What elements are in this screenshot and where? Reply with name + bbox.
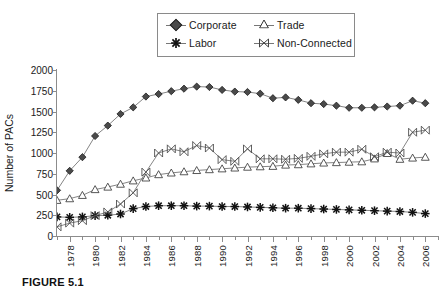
x-tick-mark xyxy=(425,236,426,242)
x-tick-mark xyxy=(184,236,185,240)
x-tick-mark xyxy=(375,236,376,242)
x-tick-mark xyxy=(349,236,350,242)
legend-item-labor: Labor xyxy=(166,35,252,51)
x-tick-mark xyxy=(248,236,249,242)
x-tick-mark xyxy=(273,236,274,242)
x-tick-label: 1994 xyxy=(267,245,278,267)
filled-diamond-icon xyxy=(166,19,186,31)
y-tick-label: 1500 xyxy=(31,106,53,117)
x-axis-ticks: 1978198019821984198619881990199219941996… xyxy=(57,236,438,292)
x-tick-mark xyxy=(146,236,147,242)
y-tick-label: 1750 xyxy=(31,85,53,96)
legend-item-trade: Trade xyxy=(254,17,350,33)
x-tick-mark xyxy=(286,236,287,240)
y-tick-label: 1250 xyxy=(31,127,53,138)
x-tick-label: 1984 xyxy=(140,245,151,267)
x-tick-label: 1978 xyxy=(64,245,75,267)
x-tick-mark xyxy=(108,236,109,240)
y-tick-label: 1000 xyxy=(31,148,53,159)
x-tick-label: 1998 xyxy=(318,245,329,267)
x-tick-mark xyxy=(95,236,96,242)
y-tick-label: 750 xyxy=(36,168,53,179)
y-tick-label: 2000 xyxy=(31,65,53,76)
filled-star-icon xyxy=(166,37,186,49)
x-tick-label: 2006 xyxy=(420,245,431,267)
open-triangle-icon xyxy=(254,19,274,31)
figure-caption: FIGURE 5.1 xyxy=(22,276,84,288)
chart-legend: Corporate Trade Labor N xyxy=(157,13,355,57)
x-tick-label: 1996 xyxy=(293,245,304,267)
x-tick-mark xyxy=(235,236,236,240)
legend-label-corporate: Corporate xyxy=(189,19,237,31)
x-tick-mark xyxy=(70,236,71,242)
x-tick-mark xyxy=(197,236,198,242)
x-tick-label: 2000 xyxy=(344,245,355,267)
y-axis-title: Number of PACs xyxy=(2,78,16,228)
legend-label-non-connected: Non-Connected xyxy=(277,37,352,49)
x-tick-mark xyxy=(57,236,58,240)
x-tick-mark xyxy=(324,236,325,242)
legend-item-non-connected: Non-Connected xyxy=(254,35,350,51)
legend-label-labor: Labor xyxy=(189,37,216,49)
x-tick-label: 1992 xyxy=(242,245,253,267)
x-tick-mark xyxy=(82,236,83,240)
x-tick-label: 2004 xyxy=(394,245,405,267)
y-tick-label: 250 xyxy=(36,210,53,221)
series-lines xyxy=(57,70,438,236)
x-tick-mark xyxy=(209,236,210,240)
x-tick-mark xyxy=(311,236,312,240)
y-tick-label: 500 xyxy=(36,189,53,200)
x-tick-mark xyxy=(171,236,172,242)
x-tick-mark xyxy=(438,236,439,240)
x-tick-label: 1982 xyxy=(115,245,126,267)
x-tick-mark xyxy=(260,236,261,240)
x-tick-mark xyxy=(159,236,160,240)
series-corporate xyxy=(57,83,429,194)
plot-area xyxy=(57,70,438,236)
x-tick-label: 2002 xyxy=(369,245,380,267)
figure-container: Corporate Trade Labor N xyxy=(0,0,446,293)
legend-label-trade: Trade xyxy=(277,19,305,31)
x-tick-mark xyxy=(121,236,122,242)
x-tick-mark xyxy=(400,236,401,242)
x-tick-mark xyxy=(222,236,223,242)
x-in-box-icon xyxy=(254,37,274,49)
x-tick-mark xyxy=(413,236,414,240)
x-tick-label: 1988 xyxy=(191,245,202,267)
x-tick-mark xyxy=(387,236,388,240)
x-tick-mark xyxy=(362,236,363,240)
x-tick-label: 1986 xyxy=(166,245,177,267)
x-tick-mark xyxy=(298,236,299,242)
x-tick-label: 1980 xyxy=(90,245,101,267)
x-tick-mark xyxy=(133,236,134,240)
x-tick-label: 1990 xyxy=(217,245,228,267)
series-labor xyxy=(57,201,430,221)
x-tick-mark xyxy=(336,236,337,240)
legend-item-corporate: Corporate xyxy=(166,17,252,33)
